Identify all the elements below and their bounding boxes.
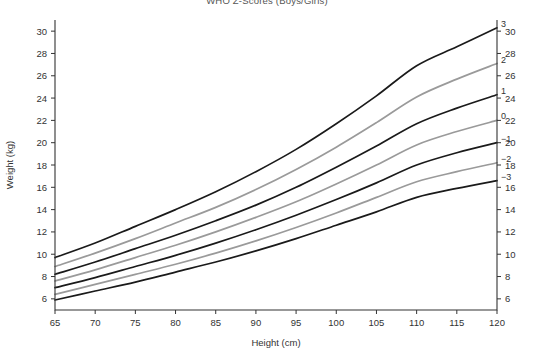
curve-end-label--3: −3: [501, 172, 511, 182]
x-tick-label-95: 95: [291, 317, 302, 328]
curves-layer: 3210−1−2−3: [55, 19, 511, 300]
weight-for-height-zscore-chart: WHO Z-Scores (Boys/Girls) 3210−1−2−3 657…: [0, 0, 534, 353]
y-right-tick-label-20: 20: [505, 137, 516, 148]
y-right-tick-label-10: 10: [505, 249, 516, 260]
x-axis-title: Height (cm): [251, 337, 300, 348]
zscore-curve-2: [55, 64, 497, 267]
y-left-tick-label-30: 30: [36, 26, 47, 37]
y-left-tick-label-28: 28: [36, 48, 47, 59]
y-right-tick-label-18: 18: [505, 160, 516, 171]
y-right-tick-label-14: 14: [505, 204, 516, 215]
x-tick-label-110: 110: [409, 317, 424, 328]
x-tick-label-115: 115: [449, 317, 464, 328]
zscore-curve--2: [55, 163, 497, 295]
x-tick-label-100: 100: [328, 317, 344, 328]
axis-frame: [55, 20, 497, 310]
y-right-tick-label-22: 22: [505, 115, 516, 126]
y-left-tick-label-8: 8: [42, 271, 47, 282]
y-right-tick-label-28: 28: [505, 48, 516, 59]
y-left-tick-label-10: 10: [36, 249, 47, 260]
y-right-tick-label-26: 26: [505, 70, 516, 81]
y-right-tick-label-6: 6: [505, 293, 510, 304]
y-left-tick-label-24: 24: [36, 93, 47, 104]
y-left-tick-label-26: 26: [36, 70, 47, 81]
y-left-tick-label-14: 14: [36, 204, 47, 215]
x-tick-label-105: 105: [369, 317, 385, 328]
zscore-curve-1: [55, 95, 497, 275]
y-right-tick-label-24: 24: [505, 93, 516, 104]
x-tick-label-80: 80: [170, 317, 181, 328]
axes-layer: [51, 20, 501, 314]
x-tick-label-65: 65: [50, 317, 61, 328]
y-left-tick-label-22: 22: [36, 115, 47, 126]
y-left-tick-label-6: 6: [42, 293, 47, 304]
y-right-tick-label-12: 12: [505, 226, 516, 237]
y-left-tick-label-16: 16: [36, 182, 47, 193]
y-axis-title: Weight (kg): [4, 141, 15, 189]
x-tick-label-85: 85: [210, 317, 221, 328]
y-left-tick-label-20: 20: [36, 137, 47, 148]
zscore-curve--3: [55, 181, 497, 300]
x-tick-label-70: 70: [90, 317, 101, 328]
x-tick-label-75: 75: [130, 317, 141, 328]
y-right-tick-label-8: 8: [505, 271, 510, 282]
chart-plot-area: 3210−1−2−3 65707580859095100105110115120…: [0, 0, 534, 353]
y-right-tick-label-30: 30: [505, 26, 516, 37]
y-left-tick-label-18: 18: [36, 160, 47, 171]
zscore-curve--1: [55, 143, 497, 288]
x-tick-label-90: 90: [251, 317, 262, 328]
zscore-curve-0: [55, 120, 497, 281]
x-tick-label-120: 120: [489, 317, 505, 328]
y-left-tick-label-12: 12: [36, 226, 47, 237]
y-right-tick-label-16: 16: [505, 182, 516, 193]
